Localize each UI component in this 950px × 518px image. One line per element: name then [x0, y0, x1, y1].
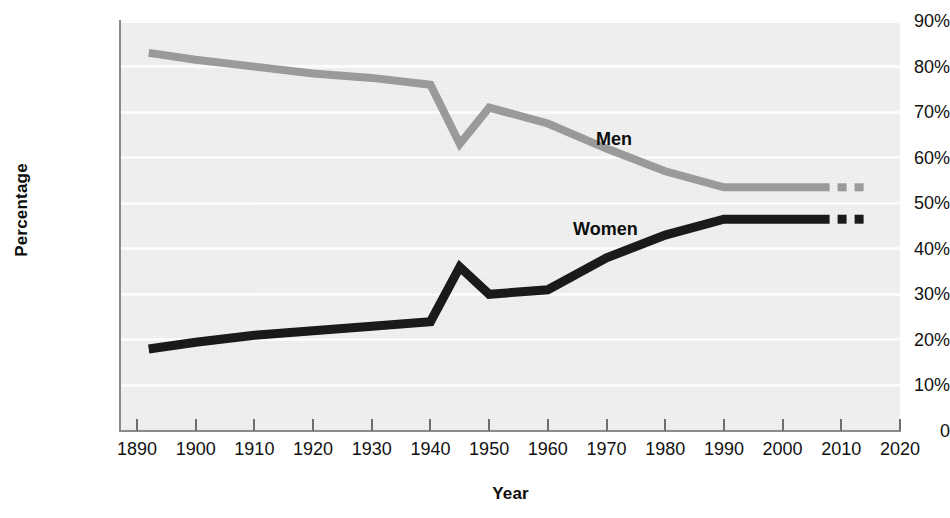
x-axis-tick [664, 419, 666, 431]
y-axis-tick-label: 20% [842, 329, 950, 350]
y-axis-line [119, 20, 121, 432]
x-axis-tick [371, 419, 373, 431]
y-axis-tick-label: 50% [842, 193, 950, 214]
series-line-men [149, 53, 830, 187]
y-axis-tick-label: 80% [842, 56, 950, 77]
x-axis-tick [136, 419, 138, 431]
y-axis-tick-label: 60% [842, 147, 950, 168]
x-axis-title: Year [121, 484, 900, 504]
series-line-women [149, 219, 830, 349]
chart-container: Percentage Year 90%80%70%60%50%40%30%20%… [0, 0, 950, 518]
y-axis-tick-label: 40% [842, 238, 950, 259]
plot-area [121, 20, 900, 431]
x-axis-tick [723, 419, 725, 431]
x-axis-tick [782, 419, 784, 431]
x-axis-tick [899, 419, 901, 431]
x-axis-tick [606, 419, 608, 431]
series-label-men: Men [596, 129, 632, 150]
x-axis-tick [488, 419, 490, 431]
y-axis-tick-label: 70% [842, 102, 950, 123]
x-axis-tick [312, 419, 314, 431]
x-axis-tick [840, 419, 842, 431]
y-axis-tick-label: 30% [842, 284, 950, 305]
x-axis-tick-label: 2020 [865, 439, 935, 460]
x-axis-tick [253, 419, 255, 431]
x-axis-tick [195, 419, 197, 431]
x-axis-line [119, 430, 901, 432]
y-axis-tick-label: 10% [842, 375, 950, 396]
y-axis-title: Percentage [12, 130, 32, 290]
y-axis-tick-label: 90% [842, 11, 950, 32]
series-label-women: Women [573, 219, 638, 240]
x-axis-tick [547, 419, 549, 431]
x-axis-tick [429, 419, 431, 431]
series-lines [121, 20, 900, 431]
